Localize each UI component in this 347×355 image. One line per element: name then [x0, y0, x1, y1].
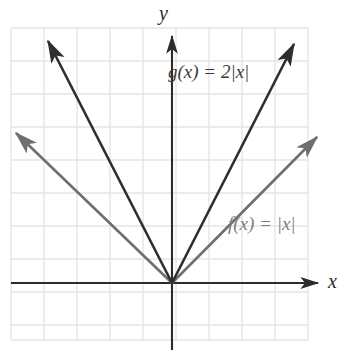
- function-label-f: f(x) = |x|: [228, 214, 296, 233]
- x-axis-label: x: [328, 271, 337, 291]
- plot-canvas: [0, 0, 347, 355]
- y-axis-label: y: [159, 3, 168, 23]
- function-label-g: g(x) = 2|x|: [168, 62, 249, 81]
- absolute-value-graph-figure: g(x) = 2|x| f(x) = |x| y x: [0, 0, 347, 355]
- figure-background: [0, 0, 347, 355]
